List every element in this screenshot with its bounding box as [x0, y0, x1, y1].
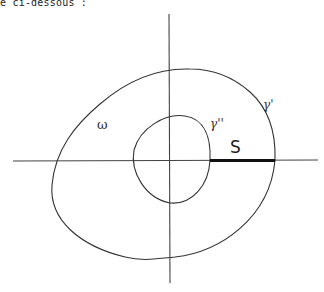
label-segment-s: S: [230, 139, 241, 156]
diagram-figure: [0, 0, 324, 292]
label-gamma-double-prime: γ'': [210, 118, 224, 130]
label-omega: ω: [97, 118, 108, 131]
outer-curve-gamma-prime: [52, 69, 275, 260]
inner-curve-gamma-double-prime: [133, 116, 210, 204]
vertical-axis: [169, 14, 170, 283]
label-gamma-prime: γ': [263, 99, 273, 111]
